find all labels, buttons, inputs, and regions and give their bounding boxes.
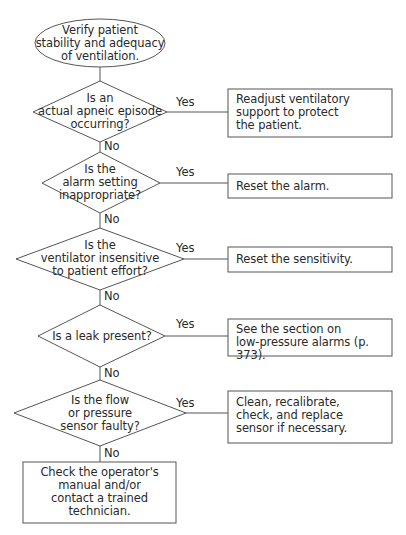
yes-label-5: Yes — [176, 397, 195, 410]
end-node-text: Check the operator's manual and/or conta… — [25, 466, 174, 518]
action-3-text: Reset the sensitivity. — [236, 253, 388, 266]
no-label-4: No — [104, 367, 120, 380]
decision-3-text: Is the ventilator insensitive to patient… — [30, 239, 170, 278]
yes-label-2: Yes — [176, 166, 195, 179]
no-label-5: No — [104, 447, 120, 460]
yes-label-4: Yes — [176, 318, 195, 331]
decision-4-text: Is a leak present? — [44, 330, 160, 343]
action-5-text: Clean, recalibrate, check, and replace s… — [236, 396, 388, 435]
no-label-1: No — [104, 140, 120, 153]
action-1-text: Readjust ventilatory support to protect … — [236, 93, 388, 132]
start-node-text: Verify patient stability and adequacy of… — [35, 24, 165, 63]
yes-label-3: Yes — [176, 242, 195, 255]
no-label-3: No — [104, 290, 120, 303]
decision-2-text: Is the alarm setting inappropriate? — [50, 163, 150, 202]
decision-5-text: Is the flow or pressure sensor faulty? — [40, 394, 160, 433]
decision-1-text: Is an actual apneic episode occurring? — [38, 92, 162, 131]
flowchart: Verify patient stability and adequacy of… — [0, 0, 406, 535]
action-4-text: See the section on low-pressure alarms (… — [236, 323, 396, 362]
no-label-2: No — [104, 213, 120, 226]
yes-label-1: Yes — [176, 96, 195, 109]
action-2-text: Reset the alarm. — [236, 180, 388, 193]
